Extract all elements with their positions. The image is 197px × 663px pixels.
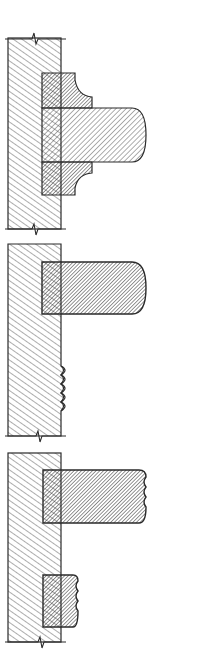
- detail-2: [5, 244, 146, 442]
- cove-molding-top: [42, 73, 92, 108]
- cove-molding-bottom: [42, 162, 92, 195]
- molding-profiles-drawing: [0, 0, 197, 663]
- reeded-molding-small: [43, 575, 78, 627]
- reeded-shelf: [43, 470, 146, 523]
- detail-3: [5, 453, 146, 648]
- detail-1: [5, 33, 146, 235]
- bullnose-shelf-1: [42, 108, 146, 162]
- bullnose-shelf-2: [42, 262, 146, 314]
